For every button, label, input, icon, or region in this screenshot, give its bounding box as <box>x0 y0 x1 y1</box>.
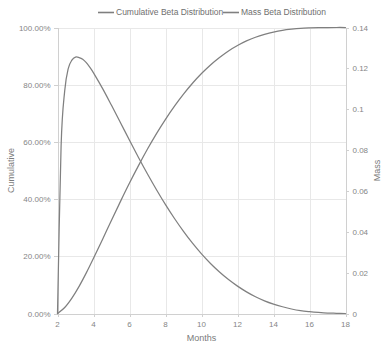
y2-tick-label: 0.06 <box>353 187 369 196</box>
y2-tick-label: 0.08 <box>353 146 369 155</box>
y-tick-label: 40.00% <box>23 195 50 204</box>
y-tick-label: 100.00% <box>19 24 51 33</box>
y-tick-label: 80.00% <box>23 81 50 90</box>
y-tick-label: 20.00% <box>23 252 50 261</box>
x-tick-label: 18 <box>341 320 350 329</box>
series-group <box>58 27 346 313</box>
y2-tick-label: 0.14 <box>353 24 369 33</box>
legend-item-label: Mass Beta Distribution <box>241 7 326 17</box>
y-axis-tick-labels: 0.00%20.00%40.00%60.00%80.00%100.00% <box>19 24 51 319</box>
y2-axis-title: Mass <box>372 159 382 181</box>
series-line-cumulative <box>58 27 346 313</box>
x-tick-label: 12 <box>233 320 242 329</box>
beta-distribution-chart: 24681012141618 0.00%20.00%40.00%60.00%80… <box>0 0 392 348</box>
gridlines-group <box>58 28 347 315</box>
x-tick-label: 4 <box>91 320 96 329</box>
y2-axis-tick-labels: 00.020.040.060.080.10.120.14 <box>353 24 369 319</box>
y2-tick-label: 0.12 <box>353 64 369 73</box>
chart-legend: Cumulative Beta DistributionMass Beta Di… <box>98 7 326 17</box>
x-axis-title: Months <box>187 333 217 343</box>
chart-canvas: 24681012141618 0.00%20.00%40.00%60.00%80… <box>0 0 392 348</box>
x-tick-label: 6 <box>127 320 132 329</box>
y-tick-label: 60.00% <box>23 138 50 147</box>
x-tick-label: 16 <box>305 320 314 329</box>
x-tick-label: 14 <box>269 320 278 329</box>
x-tick-label: 10 <box>197 320 206 329</box>
y2-tick-label: 0.1 <box>353 105 365 114</box>
y2-tick-label: 0.04 <box>353 228 369 237</box>
y2-tick-label: 0.02 <box>353 269 369 278</box>
y-axis-title: Cumulative <box>6 148 16 193</box>
series-line-mass <box>58 57 346 314</box>
x-tick-label: 2 <box>55 320 60 329</box>
x-axis-tick-labels: 24681012141618 <box>55 320 350 329</box>
y-tick-label: 0.00% <box>28 310 51 319</box>
y2-tick-label: 0 <box>353 310 358 319</box>
x-tick-label: 8 <box>163 320 168 329</box>
axis-lines-group <box>54 28 349 318</box>
legend-item-label: Cumulative Beta Distribution <box>116 7 224 17</box>
